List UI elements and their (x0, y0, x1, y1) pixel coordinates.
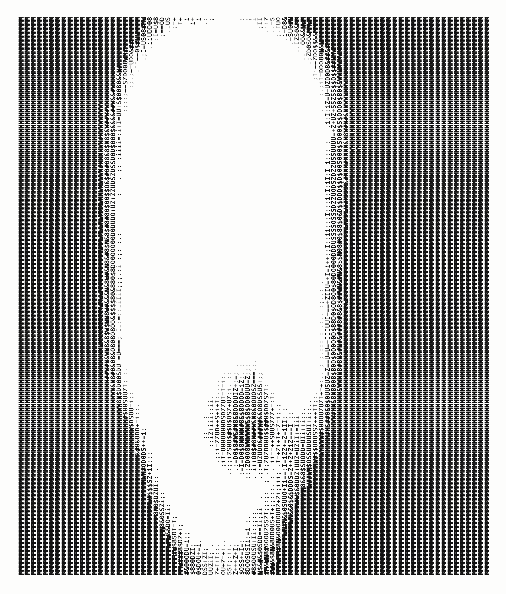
ascii-print-area (18, 17, 490, 575)
rotated-text-page (18, 17, 490, 575)
ascii-art-canvas (18, 17, 490, 575)
artboard: ASCII line-printer portrait Monochrome A… (0, 0, 506, 594)
